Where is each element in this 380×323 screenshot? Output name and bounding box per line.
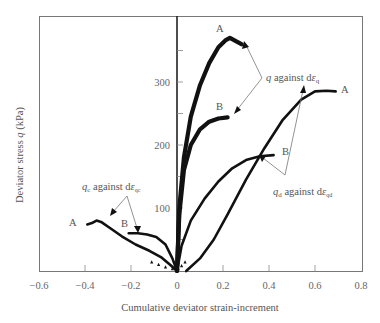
arrow-q-A xyxy=(246,45,262,78)
arrow-qd-A xyxy=(285,90,303,175)
arrow-head-icon xyxy=(259,155,266,162)
x-tick-label: −0.2 xyxy=(121,280,140,291)
x-tick-label: 0 xyxy=(174,280,179,291)
arrow-qc-A xyxy=(113,196,127,212)
arrow-head-icon xyxy=(234,106,241,114)
label-qc-A: A xyxy=(69,217,77,228)
x-axis-title: Cumulative deviator strain-increment xyxy=(121,302,279,313)
x-tick-label: −0.4 xyxy=(75,280,95,291)
label-q-B: B xyxy=(216,101,223,112)
arrow-qc-B xyxy=(127,196,137,228)
series-curve xyxy=(177,117,228,271)
x-tick-label: 0.2 xyxy=(216,280,229,291)
x-tick-label: 0.8 xyxy=(354,280,367,291)
chart: 100200300 −0.6−0.4−0.200.20.40.60.8 A B … xyxy=(0,0,380,323)
label-qc-B: B xyxy=(121,218,128,229)
arrow-head-icon xyxy=(300,85,306,93)
label-qd-A: A xyxy=(341,84,349,95)
x-tick-label: 0.6 xyxy=(308,280,321,291)
series-curve xyxy=(186,91,336,271)
label-q-A: A xyxy=(216,23,224,34)
plot-frame xyxy=(40,17,363,272)
arrow-qd-B xyxy=(263,158,285,175)
data-marker-icon xyxy=(183,260,186,263)
y-tick-label: 200 xyxy=(154,140,170,151)
arrow-q-B xyxy=(237,78,262,110)
annotation-qd-against-deqd: qd against dεqd xyxy=(273,186,332,199)
annotation-qc-against-deqc: qc against dεqc xyxy=(82,181,141,194)
data-marker-icon xyxy=(157,263,160,266)
y-axis-title: Deviator stress q (kPa) xyxy=(14,107,26,203)
x-ticks: −0.6−0.4−0.200.20.40.60.8 xyxy=(29,265,367,291)
arrow-head-icon xyxy=(242,41,249,49)
series-curve xyxy=(177,155,274,271)
data-marker-icon xyxy=(150,260,153,263)
annotation-q-against-deq: q against dεq xyxy=(266,72,320,85)
y-tick-label: 100 xyxy=(154,203,170,214)
data-marker-icon xyxy=(164,265,167,268)
x-tick-label: 0.4 xyxy=(262,280,276,291)
label-qd-B: B xyxy=(282,146,289,157)
data-marker-icon xyxy=(180,264,183,267)
x-tick-label: −0.6 xyxy=(29,280,48,291)
series-curve xyxy=(87,221,177,271)
y-tick-label: 300 xyxy=(154,77,170,88)
